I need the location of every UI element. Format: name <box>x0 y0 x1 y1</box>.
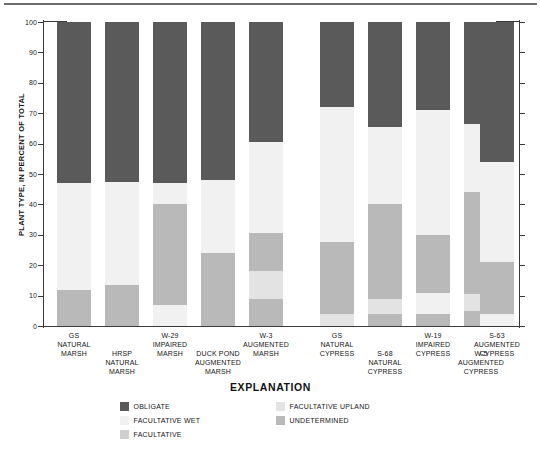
y-axis-tick-right <box>520 235 525 236</box>
y-axis-tick <box>38 326 43 327</box>
x-axis-label-line: NATURAL <box>35 340 113 349</box>
bar-segment <box>57 290 91 326</box>
x-axis-label-line: NATURAL <box>83 358 161 367</box>
x-axis-line <box>43 326 521 327</box>
bar-segment <box>320 107 354 242</box>
x-axis-label-w-3-augmented-marsh: W-3AUGMENTEDMARSH <box>227 331 305 358</box>
legend-item: FACULTATIVE <box>120 428 182 441</box>
x-axis-label-line: NATURAL <box>298 340 376 349</box>
bar-segment <box>105 285 139 326</box>
bar-s-68-natural-cypress <box>368 22 402 326</box>
bar-gs-natural-marsh <box>57 22 91 326</box>
bar-segment <box>368 204 402 298</box>
y-axis-tick-label: 50 <box>3 171 37 178</box>
plot-area <box>43 22 520 326</box>
bar-segment <box>105 182 139 285</box>
bar-segment <box>368 314 402 326</box>
legend-label: OBLIGATE <box>134 403 171 410</box>
explanation-title: EXPLANATION <box>0 381 541 393</box>
x-axis-label-line: AUGMENTED <box>179 358 257 367</box>
bar-segment <box>249 142 283 233</box>
bar-segment <box>153 22 187 183</box>
bar-segment <box>480 22 514 162</box>
legend: OBLIGATEFACULTATIVE WETFACULTATIVEFACULT… <box>120 400 422 446</box>
x-axis-label-line: W-3 <box>227 331 305 340</box>
bar-segment <box>368 22 402 127</box>
legend-swatch-icon <box>276 402 285 411</box>
bar-segment <box>320 314 354 326</box>
legend-swatch-icon <box>120 402 129 411</box>
bar-segment <box>480 314 514 326</box>
x-axis-label-line: AUGMENTED <box>442 358 520 367</box>
y-axis-tick-right <box>520 174 525 175</box>
y-axis-tick-label: 70 <box>3 110 37 117</box>
bar-segment <box>201 22 235 180</box>
bar-segment <box>57 22 91 183</box>
bar-segment <box>320 22 354 107</box>
bar-segment <box>320 242 354 313</box>
y-axis-tick-right <box>520 52 525 53</box>
y-axis-tick-right <box>520 204 525 205</box>
bar-gs-natural-cypress <box>320 22 354 326</box>
stacked-bar-chart: PLANT TYPE, IN PERCENT OF TOTAL 01020304… <box>0 0 541 454</box>
y-axis-tick-label: 100 <box>3 19 37 26</box>
legend-item: UNDETERMINED <box>276 414 349 427</box>
legend-swatch-icon <box>276 416 285 425</box>
bar-segment <box>416 314 450 326</box>
bar-segment <box>368 127 402 205</box>
x-axis-label-line: W-29 <box>131 331 209 340</box>
y-axis-tick-right <box>520 326 525 327</box>
y-axis-tick-label: 30 <box>3 231 37 238</box>
bar-w-29-impaired-marsh <box>153 22 187 326</box>
legend-label: FACULTATIVE <box>134 431 182 438</box>
y-axis-tick-right <box>520 113 525 114</box>
bar-duck-pond-augmented-marsh <box>201 22 235 326</box>
x-axis-label-s-63-augmented-cypress: S-63AUGMENTEDCYPRESS <box>458 331 536 358</box>
x-axis-label-line: GS <box>298 331 376 340</box>
x-axis-label-line: CYPRESS <box>346 367 424 376</box>
y-axis-tick-label: 20 <box>3 262 37 269</box>
x-axis-label-line: MARSH <box>179 367 257 376</box>
bar-segment <box>201 253 235 326</box>
y-axis-tick-right <box>520 83 525 84</box>
x-axis-label-line: MARSH <box>83 367 161 376</box>
bar-segment <box>480 162 514 262</box>
legend-swatch-icon <box>120 430 129 439</box>
bar-segment <box>153 204 187 304</box>
y-axis-tick-right <box>520 265 525 266</box>
bar-hrsp-natural-marsh <box>105 22 139 326</box>
y-axis-tick-label: 80 <box>3 79 37 86</box>
bar-w-19-impaired-cypress <box>416 22 450 326</box>
bar-segment <box>416 235 450 293</box>
x-axis-label-line: MARSH <box>227 349 305 358</box>
x-axis-label-line: NATURAL <box>346 358 424 367</box>
legend-label: FACULTATIVE UPLAND <box>290 403 370 410</box>
bar-segment <box>105 22 139 182</box>
x-axis-label-line: AUGMENTED <box>458 340 536 349</box>
figure-page: PLANT TYPE, IN PERCENT OF TOTAL 01020304… <box>0 0 541 454</box>
legend-label: UNDETERMINED <box>290 417 349 424</box>
legend-item: FACULTATIVE WET <box>120 414 201 427</box>
bar-segment <box>249 22 283 142</box>
y-axis-tick-right <box>520 22 525 23</box>
bar-segment <box>416 110 450 235</box>
x-axis-label-line: S-63 <box>458 331 536 340</box>
bar-segment <box>416 293 450 314</box>
bar-segment <box>153 305 187 326</box>
y-axis-tick-right <box>520 296 525 297</box>
bar-segment <box>153 183 187 204</box>
explanation-block: EXPLANATION OBLIGATEFACULTATIVE WETFACUL… <box>0 381 541 446</box>
x-axis-label-line: CYPRESS <box>458 349 536 358</box>
y-axis-tick-label: 0 <box>3 323 37 330</box>
legend-label: FACULTATIVE WET <box>134 417 201 424</box>
y-axis-tick-label: 40 <box>3 201 37 208</box>
bar-w-3-augmented-marsh <box>249 22 283 326</box>
bar-s-63-augmented-cypress <box>480 22 514 326</box>
x-axis-label-line: IMPAIRED <box>131 340 209 349</box>
bar-segment <box>57 183 91 289</box>
y-axis-tick-labels: 0102030405060708090100 <box>0 0 37 360</box>
legend-swatch-icon <box>120 416 129 425</box>
bar-segment <box>416 22 450 110</box>
bar-segment <box>249 271 283 298</box>
bar-segment <box>480 262 514 314</box>
